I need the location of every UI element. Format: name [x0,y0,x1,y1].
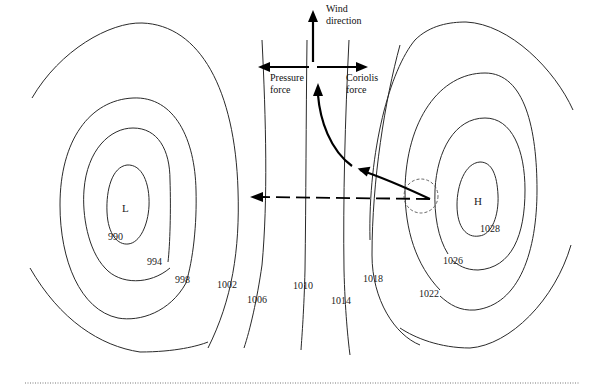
isobar-label-1006: 1006 [247,294,267,305]
wind-direction-label-2: direction [326,15,362,26]
isobar-label-1022: 1022 [419,288,439,299]
weather-map-diagram: Wind direction Pressure force Coriolis f… [0,0,604,388]
isobar-label-1014: 1014 [331,295,351,306]
isobar-label-1018: 1018 [363,273,383,284]
coriolis-force-label-2: force [346,84,367,95]
pressure-gradient-arrow [250,192,430,202]
isobar-1026 [435,118,525,270]
wind-direction-arrowhead-icon [308,10,318,22]
isobar-label-1028: 1028 [480,223,500,234]
pressure-force-label-2: force [270,84,291,95]
pressure-force-label: Pressure [270,72,304,83]
isobar-label-998: 998 [175,274,190,285]
pressure-force-arrowhead-icon [258,62,270,72]
isobar-label-1002: 1002 [217,279,237,290]
isobar-1002 [32,23,238,348]
high-center-label: H [474,195,482,207]
isobar-1010 [301,40,307,350]
coriolis-force-arrowhead-icon [356,62,368,72]
coriolis-force-label: Coriolis [346,72,378,83]
isobar-1018-high [370,22,573,240]
isobar-1018 [372,45,420,345]
isobar-label-1026: 1026 [443,255,463,266]
isobar-1022 [405,73,537,310]
low-pressure-isobars [30,23,238,352]
isobar-label-990: 990 [108,231,123,242]
wind-direction-label: Wind [326,3,348,14]
low-center-label: L [122,202,129,214]
isobar-label-1010: 1010 [293,280,313,291]
isobar-label-994: 994 [147,256,162,267]
